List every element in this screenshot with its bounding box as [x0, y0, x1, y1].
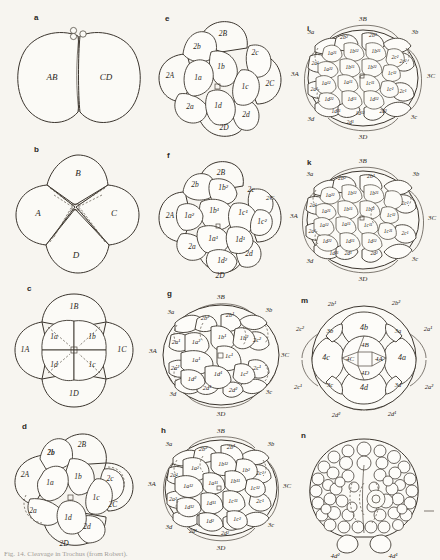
label-2d1: 2d¹: [203, 384, 212, 391]
label-2A: 2A: [166, 211, 175, 220]
label-2c2: 2c²: [256, 470, 264, 476]
label-2d1: 2d¹: [346, 119, 354, 125]
label-1b2: 1b²: [240, 334, 250, 341]
label-3d: 3d: [306, 257, 314, 264]
label-1b12: 1b¹²: [350, 48, 359, 54]
label-2a: 2a: [186, 102, 194, 111]
label-2a2: 2a²: [310, 86, 318, 92]
label-1c11: 1c¹¹: [364, 222, 373, 228]
panel-k: k: [288, 148, 440, 290]
label-3b: 3b: [267, 440, 275, 447]
label-1a: 1a: [194, 73, 202, 82]
label-1d1: 1d¹: [235, 235, 246, 244]
label-1b11: 1b¹¹: [344, 206, 353, 212]
label-1b11: 1b¹¹: [230, 478, 240, 484]
polar-body-2: [70, 33, 76, 39]
label-3C: 3C: [426, 72, 436, 80]
label-2b2: 2b²: [201, 314, 211, 321]
label-4a: 4a: [398, 353, 406, 362]
label-2d1: 2d¹: [344, 250, 352, 256]
label-1a2: 1a²: [192, 338, 202, 345]
label-1c12: 1c¹²: [250, 485, 259, 491]
label-2C: 2C: [109, 500, 119, 509]
panel-k-letter: k: [307, 158, 311, 167]
panel-d-letter: d: [22, 422, 27, 431]
label-1a12: 1a¹²: [322, 80, 331, 86]
label-2d2: 2d²: [229, 386, 239, 393]
label-2a1: 2a¹: [424, 325, 433, 332]
label-2a: 2a: [188, 242, 196, 251]
label-3a: 3a: [306, 170, 314, 177]
label-1A: 1A: [21, 345, 30, 354]
label-3B: 3B: [216, 293, 226, 301]
label-2d2: 2d²: [379, 108, 387, 114]
label-2b2: 2b²: [392, 299, 402, 306]
panel-c: c 1B 1A 1C 1D 1a 1b 1d 1c: [0, 280, 150, 420]
label-2c2: 2c²: [402, 200, 409, 206]
label-2b2: 2b²: [199, 445, 209, 452]
panel-m-letter: m: [301, 296, 308, 305]
panel-f-drawing: 2B 2b 1b² 2c 2C 2A 1a² 1b¹ 1c¹ 1c² 1a¹ 1…: [145, 148, 295, 288]
label-1c: 1c: [88, 360, 96, 369]
label-2b2: 2b²: [340, 34, 348, 40]
label-2B: 2B: [217, 168, 226, 177]
label-3b: 3b: [412, 170, 420, 177]
label-2a2: 2a²: [171, 364, 181, 371]
label-1b21: 1b²¹: [372, 48, 381, 54]
label-1d2: 1d²: [217, 256, 228, 265]
panel-h-drawing: 3B 3a 3b 2b² 2b¹ 3A 3C 2a¹ 2c² 2a² 2c¹ 1…: [143, 418, 298, 560]
label-2a2: 2a²: [308, 228, 316, 234]
label-1a11: 1a¹¹: [208, 480, 218, 486]
label-1d21: 1d²¹: [332, 108, 341, 114]
label-1a: 1a: [50, 332, 58, 341]
label-2b: 2b: [191, 180, 199, 189]
label-1B: 1B: [70, 302, 79, 311]
label-1d11: 1d¹¹: [206, 500, 216, 506]
label-1d22: 1d²²: [323, 238, 332, 244]
panel-b-letter: b: [34, 145, 39, 154]
label-a: A: [34, 208, 41, 218]
label-3a: 3a: [165, 440, 173, 447]
panel-n-drawing: 4d² 4d¹: [288, 425, 440, 560]
label-2D: 2D: [215, 271, 225, 280]
panel-i: i: [288, 8, 440, 150]
panel-g-letter: g: [167, 289, 172, 298]
label-1c: 1c: [241, 82, 249, 91]
label-3a: 3a: [167, 308, 175, 315]
panel-n-letter: n: [301, 431, 306, 440]
label-2b1: 2b¹: [226, 311, 235, 318]
label-3c: 3c: [411, 255, 418, 262]
label-1d12: 1d¹²: [368, 238, 377, 244]
center-furrow: [68, 495, 73, 500]
label-1b1: 1b¹: [218, 333, 227, 340]
label-2c: 2c: [106, 474, 114, 483]
label-2d1: 2d¹: [189, 528, 197, 534]
label-1b22: 1b²²: [368, 64, 377, 70]
label-1c11: 1c¹¹: [366, 80, 375, 86]
label-3c: 3c: [267, 521, 274, 528]
panel-e-drawing: 2B 2b 2c 2A 2C 2a 2d 2D 1b 1a 1c 1d: [145, 8, 295, 150]
label-1a21: 1a²¹: [322, 208, 331, 214]
label-b: B: [75, 168, 81, 178]
label-1d21: 1d²¹: [330, 250, 339, 256]
label-1d12: 1d¹²: [184, 504, 194, 510]
label-4D: 4D: [361, 369, 370, 377]
label-1a12: 1a¹²: [183, 483, 193, 489]
label-1b12: 1b¹²: [348, 190, 357, 196]
label-3c: 3c: [326, 381, 333, 388]
label-2D: 2D: [219, 123, 229, 132]
label-2B: 2B: [219, 29, 228, 38]
label-1c1: 1c¹: [238, 208, 248, 217]
panel-g-drawing: 3B 3a 3b 2b² 2b¹ 3A 3C 2a¹ 2c² 2a² 2c¹ 1…: [143, 283, 298, 428]
label-2b1: 2b¹: [367, 173, 375, 179]
label-3d: 3d: [169, 390, 177, 397]
label-1a1: 1a¹: [208, 234, 219, 243]
label-2D: 2D: [59, 539, 69, 548]
label-ab: AB: [46, 72, 58, 82]
label-4d: 4d: [360, 383, 369, 392]
panel-f-letter: f: [167, 151, 170, 160]
label-2a: 2a: [29, 506, 37, 515]
panel-e: e 2B 2b 2c 2A 2C 2a 2d 2D 1b 1a 1c 1d: [145, 8, 295, 150]
label-c: C: [111, 208, 118, 218]
label-3d: 3d: [307, 115, 315, 122]
